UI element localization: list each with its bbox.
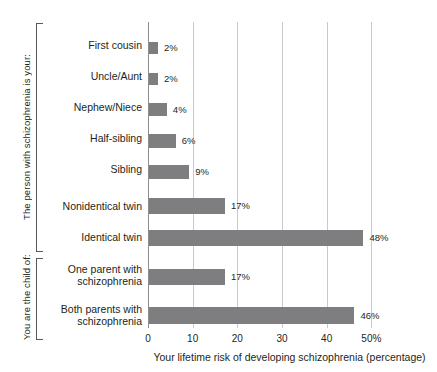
- bar: [149, 42, 158, 54]
- category-label: Nephew/Niece: [44, 102, 148, 114]
- bar: [149, 73, 158, 85]
- x-axis-title: Your lifetime risk of developing schizop…: [148, 351, 431, 363]
- bar-value-label: 2%: [164, 73, 178, 84]
- bar-value-label: 46%: [360, 310, 379, 321]
- bar: [149, 230, 363, 246]
- x-tick-label: 40: [321, 333, 332, 344]
- bar-value-label: 9%: [195, 166, 209, 177]
- group-bracket-parents: [36, 258, 43, 340]
- category-label: Nonidentical twin: [44, 201, 148, 213]
- category-label: One parent with schizophrenia: [44, 264, 148, 287]
- group-label-parents: You are the child of:: [22, 258, 34, 340]
- category-label: Both parents with schizophrenia: [44, 304, 148, 327]
- category-label-column: First cousin Uncle/Aunt Nephew/Niece Hal…: [44, 0, 148, 372]
- x-tick-label: 20: [232, 333, 243, 344]
- gridline: [327, 22, 328, 328]
- bar: [149, 198, 225, 214]
- category-label: Half-sibling: [44, 133, 148, 145]
- bar-value-label: 2%: [164, 42, 178, 53]
- gridline: [237, 22, 238, 328]
- schizophrenia-risk-bar-chart: The person with schizophrenia is your: Y…: [0, 0, 437, 372]
- x-tick-label: 10: [187, 333, 198, 344]
- group-bracket-relatives: [36, 23, 43, 252]
- category-label: Sibling: [44, 164, 148, 176]
- bar-value-label: 17%: [231, 271, 250, 282]
- gridline: [282, 22, 283, 328]
- bar-value-label: 48%: [369, 232, 388, 243]
- category-label: Uncle/Aunt: [44, 71, 148, 83]
- bar-value-label: 6%: [182, 135, 196, 146]
- x-tick-label: 30: [276, 333, 287, 344]
- bar: [149, 269, 225, 285]
- bar: [149, 134, 176, 148]
- bar: [149, 165, 189, 179]
- bar-value-label: 17%: [231, 200, 250, 211]
- x-tick-label: 50%: [361, 333, 381, 344]
- plot-area: 2%2%4%6%9%17%48%17%46%: [148, 22, 416, 328]
- category-label: Identical twin: [44, 232, 148, 244]
- category-label: First cousin: [44, 40, 148, 52]
- group-label-relatives: The person with schizophrenia is your:: [22, 23, 34, 252]
- bar: [149, 307, 354, 324]
- gridline: [371, 22, 372, 328]
- x-tick-label: 0: [145, 333, 151, 344]
- bar-value-label: 4%: [173, 104, 187, 115]
- bar: [149, 103, 167, 116]
